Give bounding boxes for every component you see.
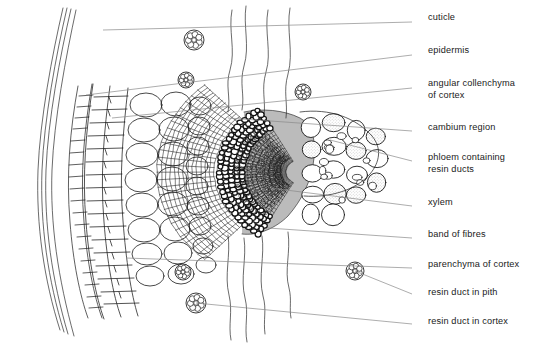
leader-line-epidermis xyxy=(86,55,412,95)
label-cuticle: cuticle xyxy=(428,12,455,24)
label-text: resin duct in pith xyxy=(428,287,498,297)
label-text: epidermis xyxy=(428,45,469,55)
resin-duct-icon xyxy=(295,84,311,100)
label-text: cuticle xyxy=(428,12,455,22)
leader-line-resin-duct-in-cortex xyxy=(196,303,412,324)
leader-line-cuticle xyxy=(103,22,412,30)
label-phloem-resin-ducts: phloem containingresin ducts xyxy=(428,152,505,175)
label-text-line2: of cortex xyxy=(428,90,465,100)
label-xylem: xylem xyxy=(428,197,453,209)
leader-line-parenchyma-of-cortex xyxy=(126,258,412,268)
label-text: resin duct in cortex xyxy=(428,316,508,326)
label-parenchyma-of-cortex: parenchyma of cortex xyxy=(428,259,519,271)
resin-duct-icon xyxy=(178,72,194,88)
label-text: parenchyma of cortex xyxy=(428,259,519,269)
label-resin-duct-in-cortex: resin duct in cortex xyxy=(428,316,508,328)
label-text: band of fibres xyxy=(428,229,486,239)
label-text: cambium region xyxy=(428,122,495,132)
label-cambium-region: cambium region xyxy=(428,122,495,134)
leader-line-band-of-fibres xyxy=(268,228,412,238)
cortex-parenchyma xyxy=(125,92,216,286)
label-resin-duct-in-pith: resin duct in pith xyxy=(428,287,498,299)
label-angular-collenchyma: angular collenchymaof cortex xyxy=(428,78,515,101)
label-text: angular collenchyma xyxy=(428,78,515,88)
label-text: xylem xyxy=(428,197,453,207)
label-band-of-fibres: band of fibres xyxy=(428,229,486,241)
label-text: phloem containing xyxy=(428,152,505,162)
resin-duct-icon xyxy=(184,30,204,50)
cuticle-layer xyxy=(38,8,76,336)
figure-page: cuticleepidermisangular collenchymaof co… xyxy=(0,0,543,345)
pith-and-right-phloem xyxy=(301,114,388,226)
label-text-line2: resin ducts xyxy=(428,164,474,174)
leader-line-resin-duct-in-pith xyxy=(355,271,412,294)
label-epidermis: epidermis xyxy=(428,45,469,57)
resin-duct-icon xyxy=(175,264,191,280)
